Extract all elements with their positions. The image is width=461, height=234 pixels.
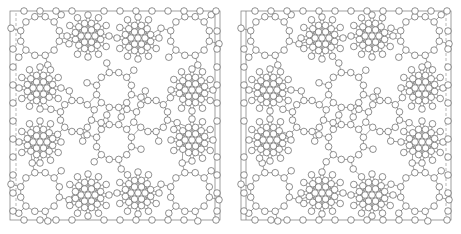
- node-circle: [330, 126, 337, 133]
- node-circle: [37, 8, 44, 15]
- node-circle: [428, 76, 435, 83]
- node-circle: [300, 217, 307, 224]
- node-circle: [88, 204, 95, 211]
- node-circle: [47, 121, 54, 128]
- node-circle: [84, 101, 91, 108]
- node-circle: [40, 126, 47, 133]
- node-circle: [365, 109, 372, 116]
- node-circle: [8, 25, 15, 32]
- node-circle: [329, 17, 336, 24]
- node-circle: [104, 112, 111, 119]
- node-circle: [32, 169, 39, 176]
- node-circle: [28, 148, 35, 155]
- node-circle: [425, 218, 432, 225]
- node-circle: [276, 78, 283, 85]
- node-circle: [378, 183, 385, 190]
- node-circle: [142, 88, 149, 95]
- node-circle: [133, 8, 140, 15]
- node-circle: [145, 172, 152, 179]
- node-circle: [182, 52, 189, 59]
- node-circle: [437, 149, 444, 156]
- node-circle: [178, 69, 185, 76]
- node-circle: [176, 133, 183, 140]
- node-circle: [378, 24, 385, 31]
- node-circle: [10, 118, 17, 125]
- node-circle: [42, 208, 49, 215]
- node-circle: [156, 35, 163, 42]
- node-circle: [372, 20, 379, 27]
- node-circle: [181, 8, 188, 15]
- node-circle: [328, 199, 335, 206]
- node-circle: [263, 124, 270, 131]
- node-circle: [192, 13, 199, 20]
- node-circle: [238, 181, 245, 188]
- node-circle: [356, 29, 363, 36]
- node-circle: [284, 217, 291, 224]
- node-circle: [262, 13, 269, 20]
- node-circle: [214, 46, 221, 53]
- node-circle: [138, 47, 145, 54]
- node-circle: [23, 47, 30, 54]
- node-circle: [189, 66, 196, 73]
- node-circle: [88, 117, 95, 124]
- node-circle: [249, 76, 256, 83]
- node-circle: [311, 138, 318, 145]
- node-circle: [256, 105, 263, 112]
- node-circle: [262, 208, 269, 215]
- node-circle: [84, 124, 91, 131]
- node-circle: [419, 106, 426, 113]
- node-circle: [42, 169, 49, 176]
- node-circle: [419, 139, 426, 146]
- node-circle: [33, 126, 40, 133]
- node-circle: [372, 45, 379, 52]
- node-circle: [372, 179, 379, 186]
- node-circle: [422, 13, 429, 20]
- node-circle: [214, 190, 221, 197]
- node-circle: [144, 199, 151, 206]
- node-circle: [301, 128, 308, 135]
- node-circle: [365, 45, 372, 52]
- node-circle: [128, 82, 135, 89]
- node-circle: [246, 137, 253, 144]
- node-circle: [61, 124, 68, 131]
- node-circle: [428, 94, 435, 101]
- node-circle: [10, 154, 17, 161]
- node-circle: [67, 181, 74, 188]
- node-circle: [429, 67, 436, 74]
- node-circle: [192, 208, 199, 215]
- node-circle: [115, 156, 122, 163]
- node-circle: [149, 8, 156, 15]
- node-circle: [301, 97, 308, 104]
- node-circle: [207, 76, 214, 83]
- left-tiling-graph: [0, 0, 230, 234]
- node-circle: [124, 172, 131, 179]
- node-circle: [281, 19, 288, 26]
- node-circle: [98, 151, 105, 158]
- node-circle: [320, 117, 327, 124]
- node-circle: [72, 29, 79, 36]
- node-circle: [429, 121, 436, 128]
- node-circle: [97, 188, 104, 195]
- node-circle: [58, 139, 65, 146]
- node-circle: [180, 96, 187, 103]
- node-circle: [387, 43, 394, 50]
- node-circle: [241, 154, 248, 161]
- node-circle: [445, 208, 452, 215]
- node-circle: [137, 101, 144, 108]
- node-circle: [69, 8, 76, 15]
- node-circle: [328, 26, 335, 33]
- node-circle: [350, 114, 357, 121]
- node-circle: [396, 109, 403, 116]
- node-circle: [198, 96, 205, 103]
- node-circle: [61, 101, 68, 108]
- node-circle: [74, 174, 81, 181]
- node-circle: [21, 8, 28, 15]
- node-circle: [364, 8, 371, 15]
- node-circle: [445, 118, 452, 125]
- node-circle: [147, 31, 154, 38]
- node-circle: [8, 181, 15, 188]
- node-circle: [182, 169, 189, 176]
- node-circle: [106, 69, 113, 76]
- node-circle: [319, 211, 326, 218]
- node-circle: [55, 74, 62, 81]
